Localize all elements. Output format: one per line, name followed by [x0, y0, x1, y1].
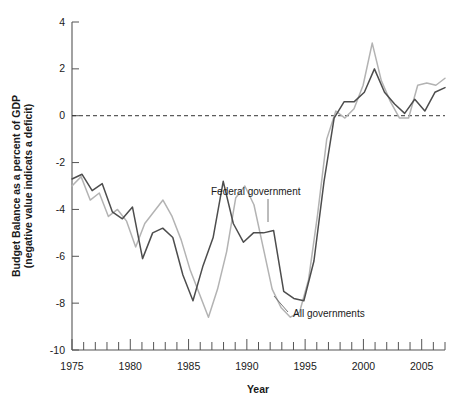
series-line-all-governments: [72, 43, 445, 317]
annotation-federal-government: Federal government: [211, 186, 301, 197]
y-tick-label: -8: [56, 297, 65, 309]
y-tick-label: 2: [59, 62, 65, 74]
y-axis-title-line2: (negative value indicats a deficit): [22, 104, 34, 269]
y-tick-label: 0: [59, 109, 65, 121]
x-tick-label: 1985: [177, 360, 201, 372]
y-tick-label: -2: [56, 156, 65, 168]
y-axis-ticks: 420-2-4-6-8-10: [50, 16, 79, 356]
y-tick-label: -10: [50, 344, 65, 356]
y-tick-label: 4: [59, 16, 65, 28]
budget-balance-chart: 420-2-4-6-8-10 1975198019851990199520002…: [0, 0, 469, 409]
annotation-leader-all: [274, 296, 288, 312]
chart-svg: 420-2-4-6-8-10 1975198019851990199520002…: [0, 0, 469, 409]
x-tick-label: 1980: [119, 360, 143, 372]
x-axis-title: Year: [247, 383, 269, 395]
x-tick-label: 2005: [410, 360, 434, 372]
y-axis-title-line1: Budget Balance as a percent of GDP: [10, 95, 22, 277]
x-tick-label: 1990: [235, 360, 259, 372]
x-axis-ticks: [72, 339, 445, 350]
series-line-federal-government: [72, 69, 445, 301]
y-tick-label: -6: [56, 250, 65, 262]
x-tick-label: 1995: [293, 360, 317, 372]
y-tick-label: -4: [56, 203, 65, 215]
annotation-all-governments: All governments: [293, 308, 365, 319]
x-tick-label: 1975: [60, 360, 84, 372]
x-axis-tick-labels: 1975198019851990199520002005: [60, 360, 433, 372]
x-tick-label: 2000: [352, 360, 376, 372]
